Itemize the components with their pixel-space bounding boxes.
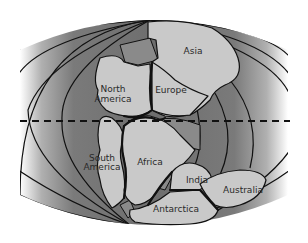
label-asia: Asia (184, 46, 203, 56)
label-africa: Africa (137, 157, 163, 167)
label-north-america-line1: North (100, 84, 125, 94)
label-south-america-line2: America (83, 162, 120, 172)
pangaea-map: Asia Europe North America South America … (0, 0, 308, 243)
label-antarctica: Antarctica (153, 204, 199, 214)
label-australia: Australia (223, 185, 263, 195)
label-europe: Europe (155, 85, 187, 95)
label-north-america-line2: America (94, 94, 131, 104)
label-india: India (186, 175, 208, 185)
